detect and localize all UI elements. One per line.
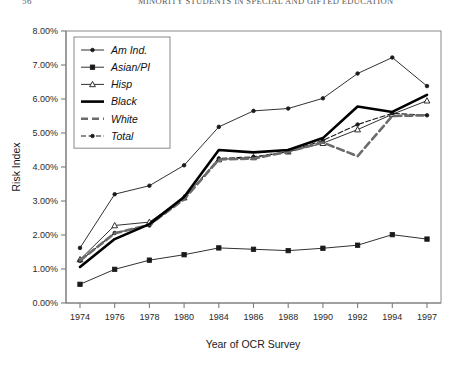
data-point-marker <box>355 127 361 132</box>
data-point-marker <box>90 65 94 69</box>
x-tick-label: 1997 <box>417 312 437 322</box>
x-tick-label: 1988 <box>278 312 298 322</box>
data-point-marker <box>113 267 117 271</box>
y-tick-label: 6.00% <box>32 94 58 104</box>
x-tick-label: 1990 <box>313 312 333 322</box>
data-point-marker <box>321 246 325 250</box>
y-tick-label: 2.00% <box>32 230 58 240</box>
x-axis: 1974197619781980198419861988199019921994… <box>66 303 441 322</box>
x-tick-label: 1984 <box>209 312 229 322</box>
legend-label: Total <box>111 130 134 142</box>
x-tick-label: 1980 <box>174 312 194 322</box>
data-point-marker <box>425 114 429 118</box>
data-point-marker <box>356 123 360 127</box>
data-point-marker <box>91 48 95 52</box>
x-tick-label: 1992 <box>348 312 368 322</box>
y-tick-label: 5.00% <box>32 128 58 138</box>
data-point-marker <box>356 72 360 76</box>
y-axis: 0.00%1.00%2.00%3.00%4.00%5.00%6.00%7.00%… <box>32 26 66 308</box>
data-point-marker <box>425 84 429 88</box>
y-axis-title: Risk Index <box>10 142 22 192</box>
data-point-marker <box>78 246 82 250</box>
data-point-marker <box>148 184 152 188</box>
y-tick-label: 7.00% <box>32 60 58 70</box>
chart-svg: 0.00%1.00%2.00%3.00%4.00%5.00%6.00%7.00%… <box>0 11 460 369</box>
y-tick-label: 4.00% <box>32 162 58 172</box>
y-tick-label: 0.00% <box>32 298 58 308</box>
y-tick-label: 1.00% <box>32 264 58 274</box>
book-running-title: MINORITY STUDENTS IN SPECIAL AND GIFTED … <box>138 0 393 6</box>
data-point-marker <box>252 109 256 113</box>
data-point-marker <box>113 192 117 196</box>
page-number: 56 <box>22 0 32 6</box>
legend-label: Black <box>111 95 137 107</box>
x-tick-label: 1994 <box>382 312 402 322</box>
legend-label: Am Ind. <box>110 44 147 56</box>
data-point-marker <box>286 248 290 252</box>
x-tick-label: 1986 <box>243 312 263 322</box>
legend-label: Hisp <box>111 78 132 90</box>
series-asian-pi <box>78 232 429 286</box>
data-point-marker <box>251 247 255 251</box>
data-point-marker <box>286 107 290 111</box>
series-line <box>80 235 427 285</box>
data-point-marker <box>182 164 186 168</box>
data-point-marker <box>217 125 221 129</box>
x-tick-label: 1974 <box>70 312 90 322</box>
x-tick-label: 1978 <box>139 312 159 322</box>
data-point-marker <box>217 246 221 250</box>
data-point-marker <box>424 98 430 103</box>
data-point-marker <box>425 237 429 241</box>
y-tick-label: 3.00% <box>32 196 58 206</box>
y-tick-label: 8.00% <box>32 26 58 36</box>
data-point-marker <box>391 56 395 60</box>
running-head: 56 MINORITY STUDENTS IN SPECIAL AND GIFT… <box>0 0 460 11</box>
data-point-marker <box>147 258 151 262</box>
data-point-marker <box>78 282 82 286</box>
chart-legend: Am Ind.Asian/PIHispBlackWhiteTotal <box>74 37 170 148</box>
data-point-marker <box>355 243 359 247</box>
x-tick-label: 1976 <box>105 312 125 322</box>
data-point-marker <box>321 97 325 101</box>
legend-label: Asian/PI <box>110 61 150 73</box>
data-point-marker <box>91 134 95 138</box>
data-point-marker <box>390 232 394 236</box>
x-axis-title: Year of OCR Survey <box>206 338 301 350</box>
legend-label: White <box>111 113 138 125</box>
data-point-marker <box>182 253 186 257</box>
risk-index-line-chart: 0.00%1.00%2.00%3.00%4.00%5.00%6.00%7.00%… <box>0 11 460 369</box>
